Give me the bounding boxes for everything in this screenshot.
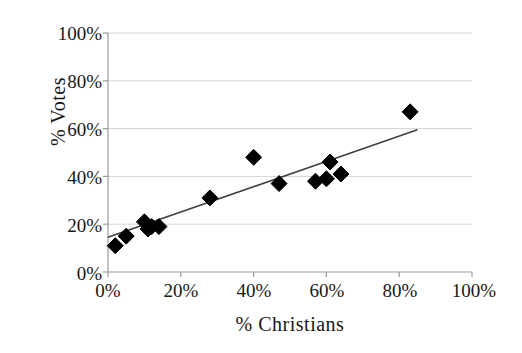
gridlines — [108, 33, 472, 224]
data-point-8 — [271, 176, 287, 192]
plot-area — [0, 0, 522, 353]
data-point-13 — [402, 104, 418, 120]
data-point-12 — [333, 166, 349, 182]
axis-lines — [108, 33, 472, 272]
axis-ticks — [103, 33, 472, 277]
data-point-1 — [118, 228, 134, 244]
scatter-chart-figure: % Votes 100% 80% 60% 40% 20% 0% 0% 20% 4… — [0, 0, 522, 353]
data-point-11 — [322, 154, 338, 170]
data-point-7 — [246, 149, 262, 165]
data-markers — [107, 104, 418, 254]
data-point-0 — [107, 238, 123, 254]
